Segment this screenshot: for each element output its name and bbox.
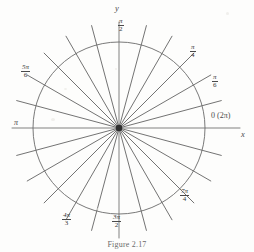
origin-point (116, 125, 122, 131)
angle-label-pi-over-2: π 2 (118, 18, 124, 34)
fraction-numerator: 7π (180, 188, 189, 195)
angle-label-3pi-over-2: 3π 2 (112, 214, 121, 230)
figure-caption: Figure 2.17 (0, 240, 254, 249)
spoke-lines (12, 22, 240, 238)
unit-circle-figure: y x 0 (2π) π 6 π 4 π 2 5π 6 π 4π 3 3π 2 … (0, 0, 254, 252)
angle-label-pi-over-6: π 6 (212, 74, 218, 90)
paper-speck (226, 12, 229, 15)
fraction-denominator: 6 (212, 81, 218, 89)
paper-speck (96, 208, 99, 210)
fraction-denominator: 6 (21, 71, 30, 79)
angle-label-5pi-over-6: 5π 6 (21, 64, 30, 80)
fraction-numerator: π (190, 44, 196, 51)
paper-speck (64, 88, 67, 90)
angle-label-4pi-over-3: 4π 3 (62, 212, 71, 228)
fraction-numerator: 3π (112, 214, 121, 221)
fraction-denominator: 2 (118, 25, 124, 33)
angle-label-0: 0 (2π) (211, 112, 230, 120)
fraction-numerator: 4π (62, 212, 71, 219)
fraction-denominator: 2 (112, 221, 121, 229)
fraction-numerator: 5π (21, 64, 30, 71)
fraction-denominator: 4 (180, 195, 189, 203)
paper-speck (115, 68, 117, 70)
fraction-denominator: 3 (62, 219, 71, 227)
angle-label-7pi-over-4: 7π 4 (180, 188, 189, 204)
angle-label-pi: π (14, 119, 18, 127)
axis-label-y: y (115, 4, 119, 13)
axis-label-x: x (241, 130, 245, 139)
fraction-numerator: π (118, 18, 124, 25)
fraction-denominator: 4 (190, 51, 196, 59)
paper-speck (51, 118, 55, 121)
unit-circle-graphic (0, 0, 254, 252)
fraction-numerator: π (212, 74, 218, 81)
angle-label-pi-over-4: π 4 (190, 44, 196, 60)
